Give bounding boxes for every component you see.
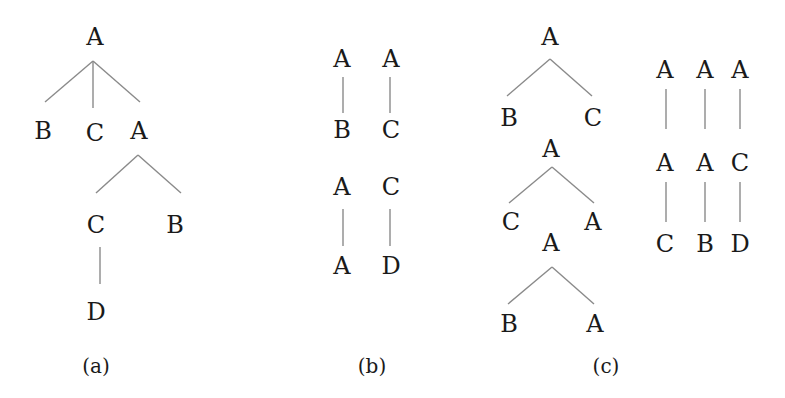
panel-c-caption: (c) <box>593 354 620 378</box>
panel-c-tree-node: A <box>655 149 674 177</box>
nodes-layer: ABCACBDABACAACDABCACAABAAACAABACD <box>34 23 749 338</box>
panel-b-tree-node: A <box>332 173 351 201</box>
panel-c-tree-node: D <box>730 230 749 258</box>
panel-c-tree-edge <box>550 59 592 96</box>
panel-c-tree-node: C <box>502 208 520 236</box>
panel-c-tree-node: A <box>585 310 604 338</box>
panel-c-tree-node: B <box>500 310 518 338</box>
panel-a-tree-node: B <box>34 117 52 145</box>
panel-a-tree-edge <box>138 155 181 193</box>
panel-b-tree-node: A <box>381 45 400 73</box>
panel-b-tree-node: A <box>332 252 351 280</box>
panel-c-tree-node: B <box>696 230 714 258</box>
panel-a-tree-edge <box>45 61 93 102</box>
panel-c-tree-node: C <box>584 104 602 132</box>
panel-b-caption: (b) <box>358 354 386 378</box>
panel-c-tree-node: C <box>656 230 674 258</box>
captions-layer: (a)(b)(c) <box>82 354 619 378</box>
panel-b-tree-node: C <box>382 173 400 201</box>
panel-c-tree-node: A <box>541 229 560 257</box>
panel-a-caption: (a) <box>82 354 110 378</box>
panel-b-tree-node: B <box>333 116 351 144</box>
panel-c-tree-node: A <box>541 135 560 163</box>
panel-c-tree-edge <box>508 267 552 304</box>
panel-b-tree-node: D <box>381 252 400 280</box>
panel-c-tree-node: A <box>540 23 559 51</box>
panel-b-tree-node: A <box>332 45 351 73</box>
tree-diagram-figure: ABCACBDABACAACDABCACAABAAACAABACD (a)(b)… <box>0 0 785 398</box>
panel-c-tree-node: A <box>583 208 602 236</box>
panel-a-tree-node: B <box>166 211 184 239</box>
panel-c-tree-node: A <box>695 149 714 177</box>
panel-c-tree-node: A <box>695 56 714 84</box>
panel-c-tree-edge <box>552 167 594 203</box>
panel-a-tree-edge <box>93 61 140 102</box>
panel-b-tree-node: C <box>382 116 400 144</box>
panel-c-tree-edge <box>507 59 550 96</box>
panel-c-tree-node: A <box>730 56 749 84</box>
panel-c-tree-node: C <box>731 149 749 177</box>
panel-a-tree-node: D <box>86 298 105 326</box>
panel-c-tree-edge <box>509 167 552 203</box>
panel-c-tree-edge <box>552 267 594 304</box>
panel-a-tree-node: A <box>85 23 104 51</box>
panel-a-tree-node: A <box>129 117 148 145</box>
panel-a-tree-edge <box>96 155 138 193</box>
panel-a-tree-node: C <box>86 119 104 147</box>
panel-a-tree-node: C <box>87 211 105 239</box>
panel-c-tree-node: A <box>655 56 674 84</box>
panel-c-tree-node: B <box>500 104 518 132</box>
